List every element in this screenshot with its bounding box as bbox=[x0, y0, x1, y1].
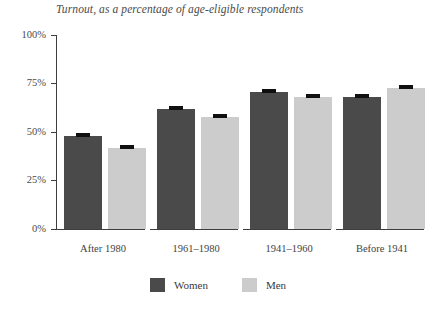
error-bar-cap bbox=[213, 114, 227, 118]
error-bar-cap bbox=[76, 133, 90, 137]
legend-label-women: Women bbox=[174, 279, 208, 291]
x-baseline-segment bbox=[336, 229, 424, 230]
y-tick-mark-25 bbox=[51, 180, 57, 181]
bar-women[interactable] bbox=[343, 97, 381, 229]
error-bar-cap bbox=[262, 89, 276, 93]
y-tick-mark-75 bbox=[51, 83, 57, 84]
bar-women[interactable] bbox=[64, 136, 102, 229]
y-tick-label-75: 75% bbox=[4, 78, 46, 89]
bar-men[interactable] bbox=[294, 97, 332, 229]
y-tick-label-0: 0% bbox=[4, 224, 46, 235]
y-tick-label-100: 100% bbox=[4, 30, 46, 41]
chart-title: Turnout, as a percentage of age-eligible… bbox=[56, 3, 303, 15]
legend-entry-women[interactable]: Women bbox=[150, 278, 208, 292]
chart-legend: Women Men bbox=[0, 278, 436, 292]
x-axis-label-1941-1960: 1941–1960 bbox=[241, 243, 337, 254]
bar-women[interactable] bbox=[250, 92, 288, 229]
error-bar-cap bbox=[120, 145, 134, 149]
bar-men[interactable] bbox=[201, 117, 239, 229]
legend-swatch-women bbox=[150, 278, 165, 292]
bar-men[interactable] bbox=[387, 88, 425, 229]
y-tick-mark-50 bbox=[51, 132, 57, 133]
y-tick-mark-100 bbox=[51, 35, 57, 36]
chart-figure: Turnout, as a percentage of age-eligible… bbox=[0, 0, 436, 310]
y-tick-label-25: 25% bbox=[4, 175, 46, 186]
bar-men[interactable] bbox=[108, 148, 146, 229]
x-axis-label-after-1980: After 1980 bbox=[55, 243, 151, 254]
x-baseline-segment bbox=[243, 229, 331, 230]
legend-swatch-men bbox=[242, 278, 257, 292]
x-axis-label-1961-1980: 1961–1980 bbox=[148, 243, 244, 254]
y-tick-label-50: 50% bbox=[4, 127, 46, 138]
x-baseline-segment bbox=[150, 229, 238, 230]
error-bar-cap bbox=[306, 94, 320, 98]
bar-women[interactable] bbox=[157, 109, 195, 229]
legend-entry-men[interactable]: Men bbox=[242, 278, 286, 292]
error-bar-cap bbox=[169, 106, 183, 110]
error-bar-cap bbox=[355, 94, 369, 98]
x-axis-label-before-1941: Before 1941 bbox=[334, 243, 430, 254]
x-baseline-segment bbox=[57, 229, 145, 230]
error-bar-cap bbox=[399, 85, 413, 89]
legend-label-men: Men bbox=[266, 279, 286, 291]
